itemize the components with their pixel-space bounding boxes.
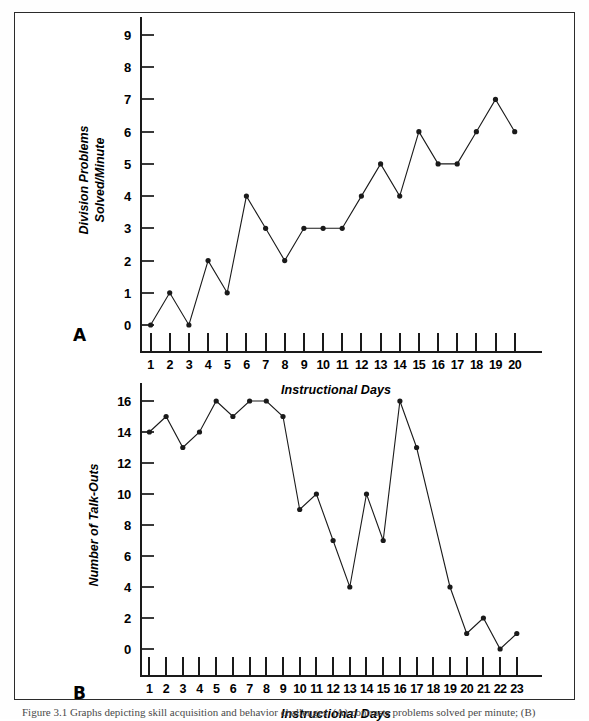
data-point <box>514 631 519 636</box>
data-point <box>148 322 153 327</box>
figure-caption: Figure 3.1 Graphs depicting skill acquis… <box>22 706 582 719</box>
data-point <box>297 507 302 512</box>
data-point <box>416 129 421 134</box>
data-point <box>381 538 386 543</box>
data-point <box>512 129 517 134</box>
data-point <box>186 322 191 327</box>
data-point <box>340 226 345 231</box>
data-point <box>301 226 306 231</box>
data-series-b <box>15 357 576 701</box>
panel-a: Division Problems Solved/Minute Instruct… <box>15 13 576 357</box>
data-point <box>225 290 230 295</box>
data-point <box>230 414 235 419</box>
data-point <box>364 491 369 496</box>
figure-frame: Division Problems Solved/Minute Instruct… <box>14 12 575 700</box>
data-point <box>481 615 486 620</box>
data-point <box>197 429 202 434</box>
data-point <box>314 491 319 496</box>
data-point <box>247 398 252 403</box>
data-point <box>214 398 219 403</box>
data-point <box>414 445 419 450</box>
data-point <box>147 429 152 434</box>
data-point <box>397 398 402 403</box>
data-point <box>167 290 172 295</box>
data-point <box>164 414 169 419</box>
data-point <box>244 194 249 199</box>
data-point <box>206 258 211 263</box>
data-point <box>474 129 479 134</box>
data-point <box>280 414 285 419</box>
data-point <box>493 97 498 102</box>
data-point <box>180 445 185 450</box>
data-point <box>397 194 402 199</box>
panel-b: Number of Talk-Outs Instructional Days B… <box>15 357 576 701</box>
data-point <box>347 584 352 589</box>
data-series-a <box>15 13 576 357</box>
data-point <box>455 161 460 166</box>
data-point <box>331 538 336 543</box>
data-point <box>263 226 268 231</box>
data-point <box>436 161 441 166</box>
data-point <box>447 584 452 589</box>
data-point <box>321 226 326 231</box>
data-point <box>264 398 269 403</box>
data-point <box>359 194 364 199</box>
data-point <box>464 631 469 636</box>
data-point <box>378 161 383 166</box>
data-point <box>498 646 503 651</box>
data-point <box>282 258 287 263</box>
